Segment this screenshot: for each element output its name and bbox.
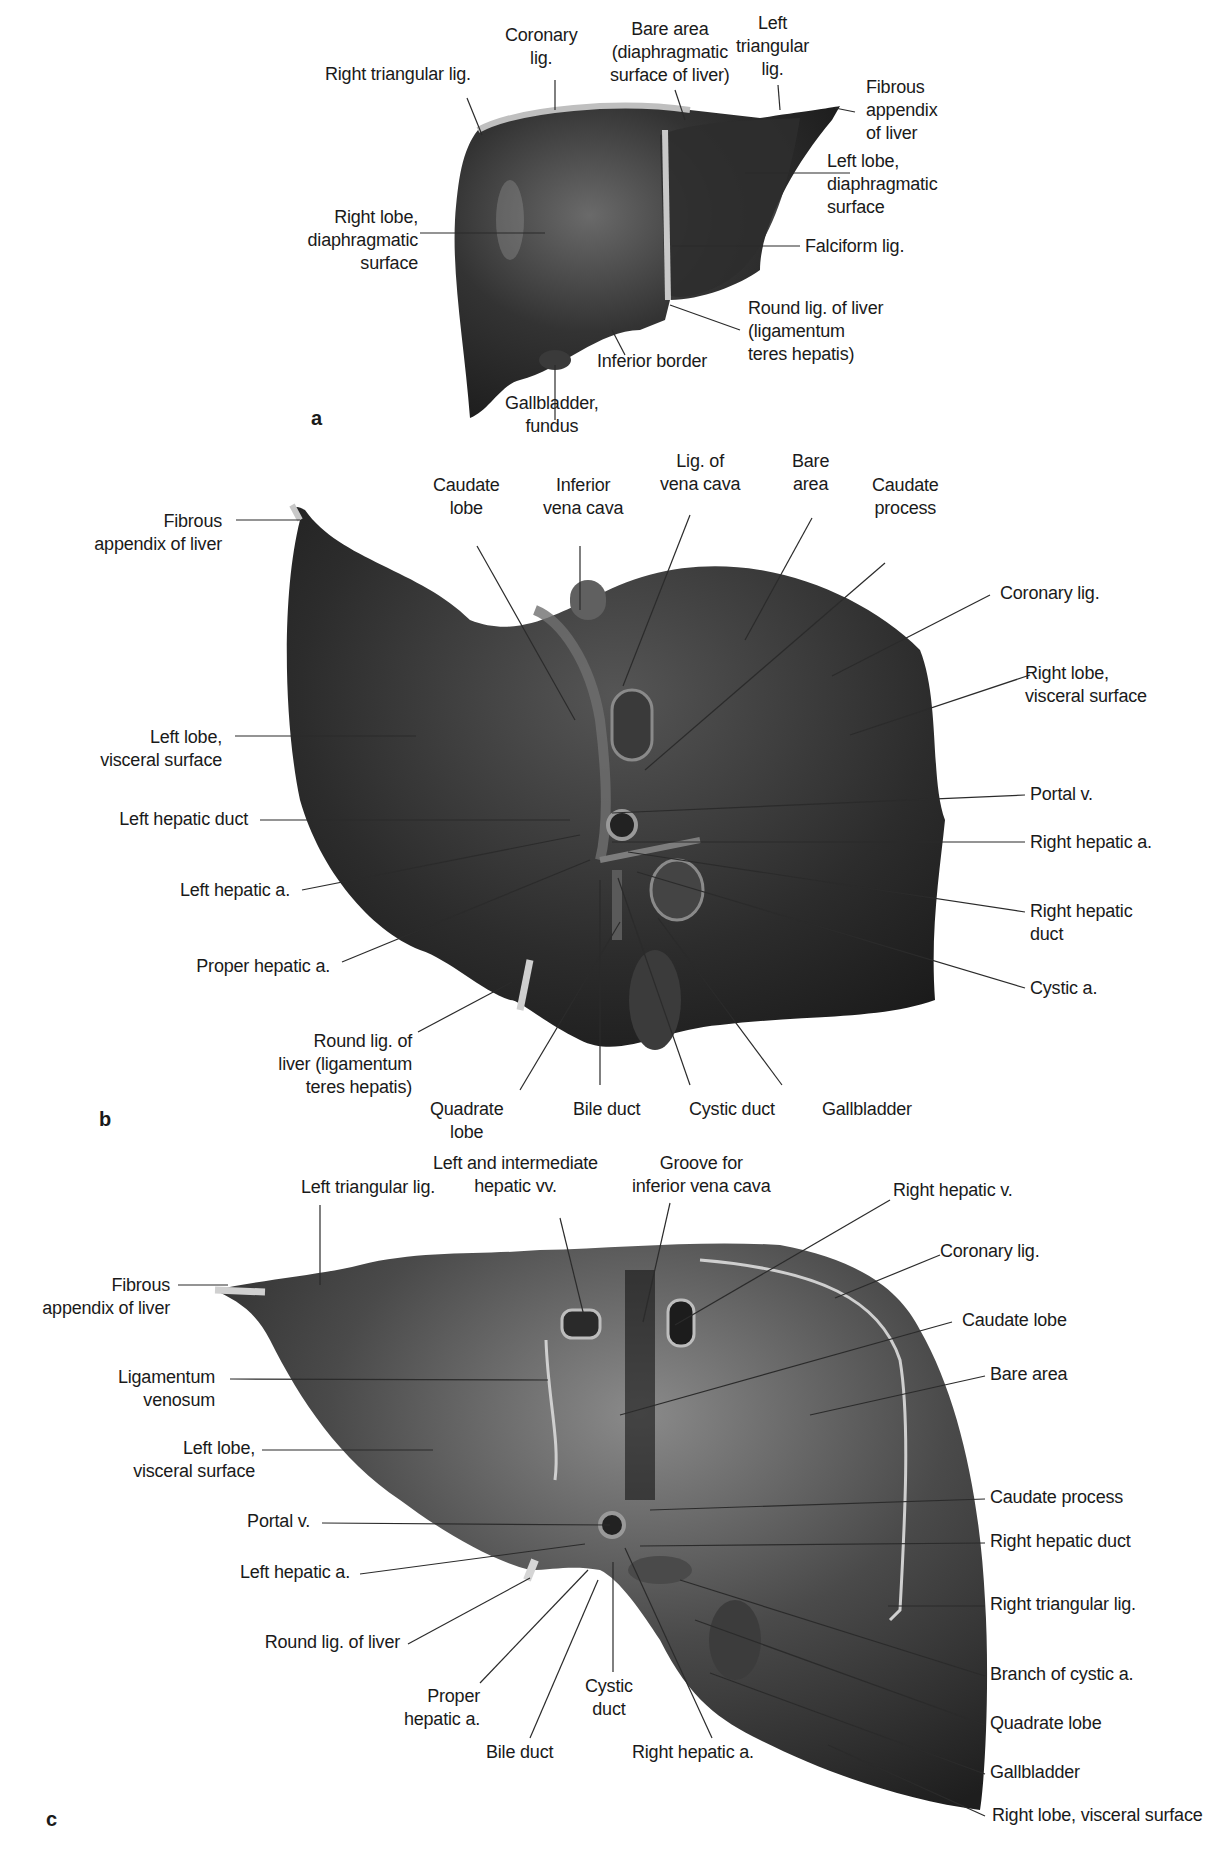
label-caudate-process-b: Caudateprocess [872,474,939,520]
panel-letter-b: b [99,1108,111,1131]
panel-b-illustration [287,505,945,1050]
label-left-hepatic-a-b: Left hepatic a. [150,879,290,902]
label-left-triangular-lig-c: Left triangular lig. [200,1176,435,1199]
label-left-lobe-visceral-b: Left lobe,visceral surface [80,726,222,772]
label-right-hepatic-v-c: Right hepatic v. [893,1179,1013,1202]
label-quadrate-lobe-b: Quadratelobe [430,1098,503,1144]
label-lig-venosum-c: Ligamentumvenosum [90,1366,215,1412]
label-branch-cystic-a-c: Branch of cystic a. [990,1663,1133,1686]
label-right-hepatic-a-c: Right hepatic a. [632,1741,754,1764]
label-caudate-lobe-c: Caudate lobe [962,1309,1067,1332]
label-bare-area-c: Bare area [990,1363,1067,1386]
label-right-lobe-visceral-c: Right lobe, visceral surface [992,1804,1203,1827]
label-caudate-process-c: Caudate process [990,1486,1123,1509]
label-left-hepatic-a-c: Left hepatic a. [200,1561,350,1584]
label-right-triangular-lig: Right triangular lig. [325,63,471,86]
label-hepatic-vv-c: Left and intermediatehepatic vv. [433,1152,598,1198]
label-proper-hepatic-a-c: Properhepatic a. [378,1685,480,1731]
label-cystic-a-b: Cystic a. [1030,977,1097,1000]
panel-letter-c: c [46,1808,57,1831]
label-left-lobe-visceral-c: Left lobe,visceral surface [95,1437,255,1483]
label-coronary-lig: Coronarylig. [505,24,577,70]
label-right-hepatic-duct-c: Right hepatic duct [990,1530,1131,1553]
label-portal-v-c: Portal v. [200,1510,310,1533]
panel-letter-a: a [311,407,322,430]
label-right-triangular-lig-c: Right triangular lig. [990,1593,1136,1616]
label-cystic-duct-c: Cysticduct [585,1675,633,1721]
label-left-hepatic-duct-b: Left hepatic duct [90,808,248,831]
label-cystic-duct-b: Cystic duct [689,1098,775,1121]
label-ivc-b: Inferiorvena cava [543,474,623,520]
label-right-hepatic-duct-b: Right hepaticduct [1030,900,1132,946]
label-right-lobe-visceral-b: Right lobe,visceral surface [1025,662,1147,708]
label-gallbladder-c: Gallbladder [990,1761,1080,1784]
panel-c-illustration [215,1243,987,1810]
label-fibrous-appendix: Fibrousappendixof liver [866,76,937,145]
label-left-triangular-lig: Lefttriangularlig. [736,12,809,81]
label-right-hepatic-a-b: Right hepatic a. [1030,831,1152,854]
label-bare-area-b: Barearea [792,450,829,496]
label-gallbladder-fundus: Gallbladder,fundus [505,392,599,438]
label-right-lobe-diaphragmatic: Right lobe,diaphragmaticsurface [298,206,418,275]
label-coronary-lig-c: Coronary lig. [940,1240,1039,1263]
label-bare-area: Bare area(diaphragmaticsurface of liver) [610,18,730,87]
label-proper-hepatic-a-b: Proper hepatic a. [160,955,330,978]
label-fibrous-appendix-c: Fibrousappendix of liver [26,1274,170,1320]
label-lig-vena-cava: Lig. ofvena cava [660,450,740,496]
label-caudate-lobe-b: Caudatelobe [433,474,500,520]
label-groove-ivc-c: Groove forinferior vena cava [632,1152,770,1198]
label-round-lig-b: Round lig. ofliver (ligamentumteres hepa… [240,1030,412,1099]
label-portal-v-b: Portal v. [1030,783,1093,806]
label-fibrous-appendix-b: Fibrousappendix of liver [82,510,222,556]
label-bile-duct-b: Bile duct [573,1098,640,1121]
label-left-lobe-diaphragmatic: Left lobe,diaphragmaticsurface [827,150,937,219]
label-round-lig-a: Round lig. of liver(ligamentumteres hepa… [748,297,883,366]
label-gallbladder-b: Gallbladder [822,1098,912,1121]
label-bile-duct-c: Bile duct [486,1741,553,1764]
label-inferior-border: Inferior border [597,350,707,373]
label-round-lig-c: Round lig. of liver [220,1631,400,1654]
liver-anatomy-figure: Coronarylig. Bare area(diaphragmaticsurf… [0,0,1226,1861]
label-coronary-lig-b: Coronary lig. [1000,582,1099,605]
label-falciform-lig: Falciform lig. [805,235,904,258]
label-quadrate-lobe-c: Quadrate lobe [990,1712,1101,1735]
